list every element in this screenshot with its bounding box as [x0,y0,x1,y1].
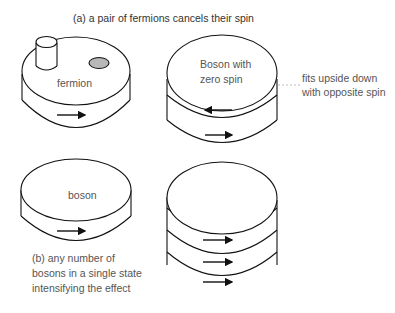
boson-stack [167,162,277,282]
small-cylinder-icon [36,37,57,71]
boson-zero-spin-label-2: zero spin [200,72,243,87]
caption-b-2: bosons in a single state [32,266,142,281]
caption-b-1: (b) any number of [32,251,115,266]
boson-zero-spin-label-1: Boson with [200,57,251,72]
fermion-label: fermion [57,76,92,91]
caption-a: (a) a pair of fermions cancels their spi… [73,11,254,26]
boson-label: boson [68,188,97,203]
boson-zero-spin-stack [167,35,277,143]
gray-dot-icon [89,58,109,69]
side-note-2: with opposite spin [302,85,385,100]
caption-b-3: intensifying the effect [32,281,130,296]
side-note-1: fits upside down [302,71,377,86]
